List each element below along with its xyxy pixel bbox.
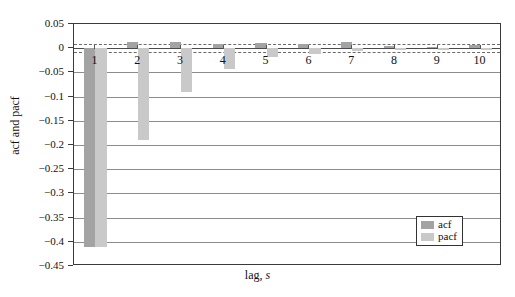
x-tick-mark: [480, 45, 481, 49]
legend-swatch-pacf: [421, 233, 434, 241]
x-tick-label: 4: [220, 54, 226, 66]
gridline: [74, 145, 500, 146]
legend-label-acf: acf: [438, 219, 451, 230]
x-tick-label: 3: [177, 54, 183, 66]
y-tick-label: 0: [59, 42, 65, 53]
bar-acf-lag-1: [84, 48, 95, 246]
legend-swatch-acf: [421, 221, 434, 229]
y-tick-label: −0.15: [39, 114, 64, 125]
x-tick-mark: [351, 45, 352, 49]
y-tick-label: −0.2: [44, 139, 64, 150]
x-axis-title-text: lag,: [245, 268, 266, 282]
x-tick-label: 1: [91, 54, 97, 66]
y-tick-label: −0.05: [39, 66, 64, 77]
x-tick-label: 6: [305, 54, 311, 66]
x-tick-mark: [308, 45, 309, 49]
x-tick-label: 2: [134, 54, 140, 66]
x-tick-label: 5: [263, 54, 269, 66]
y-tick-label: −0.4: [44, 235, 64, 246]
x-tick-mark: [94, 45, 95, 49]
legend-item-acf: acf: [421, 219, 457, 230]
y-axis-title: acf and pacf: [8, 66, 23, 186]
bar-pacf-lag-8: [395, 48, 406, 50]
bar-pacf-lag-7: [352, 48, 363, 51]
x-tick-label: 7: [348, 54, 354, 66]
y-axis: acf and pacf 0.050−0.05−0.1−0.15−0.2−0.2…: [0, 0, 73, 297]
x-tick-mark: [437, 45, 438, 49]
x-axis-title-variable: s: [266, 268, 271, 282]
x-tick-label: 8: [391, 54, 397, 66]
x-tick-mark: [137, 45, 138, 49]
y-tick-label: −0.1: [44, 90, 64, 101]
x-tick-label: 10: [474, 54, 486, 66]
gridline: [74, 193, 500, 194]
gridline: [74, 169, 500, 170]
y-tick-label: −0.25: [39, 163, 64, 174]
legend-item-pacf: pacf: [421, 231, 457, 242]
legend-label-pacf: pacf: [438, 231, 457, 242]
bar-pacf-lag-9: [438, 48, 449, 50]
x-tick-label: 9: [434, 54, 440, 66]
y-tick-label: −0.35: [39, 211, 64, 222]
x-tick-mark: [180, 45, 181, 49]
y-tick-mark: [68, 265, 73, 266]
acf-pacf-chart: acf and pacf 0.050−0.05−0.1−0.15−0.2−0.2…: [0, 0, 515, 297]
bar-pacf-lag-10: [481, 48, 492, 50]
y-tick-label: −0.3: [44, 187, 64, 198]
x-tick-mark: [223, 45, 224, 49]
x-tick-mark: [266, 45, 267, 49]
x-tick-mark: [394, 45, 395, 49]
bar-pacf-lag-1: [95, 48, 106, 246]
x-axis-title: lag, s: [0, 268, 515, 283]
y-tick-label: 0.05: [45, 18, 64, 29]
legend: acf pacf: [416, 216, 463, 246]
